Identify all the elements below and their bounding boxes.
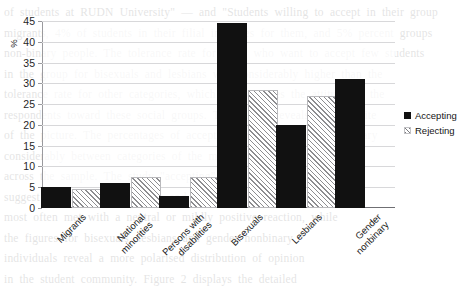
y-tick-label: 35	[23, 57, 35, 69]
bar-accepting-5	[335, 79, 365, 208]
x-axis-label-5: Gender nonbinary	[311, 212, 391, 292]
plot-area: 051015202530354045	[42, 21, 395, 208]
bar-rejecting-1	[131, 177, 161, 208]
legend-item-accepting: Accepting	[404, 108, 457, 123]
bar-accepting-1	[100, 183, 130, 208]
y-tick-label: 40	[23, 36, 35, 48]
gridline	[42, 21, 395, 22]
y-axis-title: %	[8, 39, 19, 47]
y-tick-mark	[38, 104, 42, 105]
bar-rejecting-4	[307, 96, 337, 208]
y-tick-label: 0	[29, 202, 35, 214]
y-tick-mark	[38, 166, 42, 167]
bar-accepting-4	[276, 125, 306, 208]
bar-accepting-3	[217, 23, 247, 208]
bar-accepting-2	[159, 196, 189, 208]
bar-chart: % 051015202530354045 MigrantsNational mi…	[0, 0, 464, 293]
y-tick-mark	[38, 146, 42, 147]
bar-accepting-0	[41, 187, 71, 208]
y-tick-mark	[38, 63, 42, 64]
legend-label-rejecting: Rejecting	[415, 123, 455, 138]
y-axis-line	[42, 21, 43, 208]
bar-rejecting-3	[248, 90, 278, 208]
y-tick-label: 5	[29, 181, 35, 193]
bar-rejecting-2	[190, 177, 220, 208]
y-tick-label: 15	[23, 140, 35, 152]
y-tick-label: 30	[23, 77, 35, 89]
legend-swatch-rejecting-icon	[404, 127, 411, 134]
legend-swatch-accepting-icon	[404, 112, 411, 119]
y-tick-label: 45	[23, 15, 35, 27]
bar-rejecting-0	[72, 189, 102, 208]
chart-legend: Accepting Rejecting	[404, 108, 457, 138]
legend-label-accepting: Accepting	[415, 108, 457, 123]
y-tick-mark	[38, 21, 42, 22]
y-tick-label: 25	[23, 98, 35, 110]
y-tick-mark	[38, 83, 42, 84]
y-tick-label: 20	[23, 119, 35, 131]
y-tick-mark	[38, 125, 42, 126]
y-tick-label: 10	[23, 160, 35, 172]
legend-item-rejecting: Rejecting	[404, 123, 457, 138]
y-tick-mark	[38, 208, 42, 209]
y-tick-mark	[38, 42, 42, 43]
